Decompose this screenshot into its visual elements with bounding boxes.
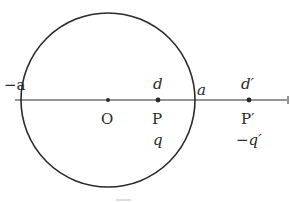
label-a: a (197, 81, 206, 99)
label-P: P (152, 110, 162, 128)
label-neg-a: −a (4, 76, 26, 94)
label-O: O (101, 110, 113, 128)
label-P-prime: P′ (241, 110, 255, 128)
point-O (106, 98, 110, 102)
image-charge-diagram: −a O d P q a d′ P′ −q′ (0, 0, 290, 202)
label-d-prime: d′ (241, 75, 255, 93)
point-P-prime (247, 98, 252, 103)
label-d: d (153, 75, 163, 93)
point-P (156, 98, 161, 103)
label-neg-q-prime: −q′ (236, 131, 262, 149)
label-q: q (153, 131, 163, 149)
